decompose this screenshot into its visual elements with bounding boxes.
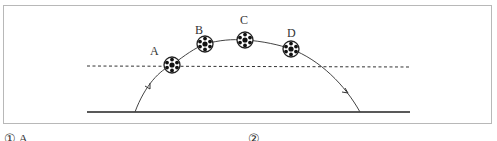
ball-icon-c xyxy=(237,32,253,48)
projectile-diagram xyxy=(0,0,497,141)
ball-icon-a xyxy=(164,57,180,73)
ball-icon-d xyxy=(283,41,299,57)
option-2[interactable]: ② xyxy=(248,131,260,141)
option-2-marker: ② xyxy=(248,131,260,141)
reference-line-dashed xyxy=(87,66,410,67)
option-1[interactable]: ① A xyxy=(4,131,28,141)
option-1-label: A xyxy=(19,131,28,141)
point-label-b: B xyxy=(195,23,203,38)
trajectory-curve xyxy=(135,40,360,112)
point-label-a: A xyxy=(150,44,159,59)
ball-icon-b xyxy=(197,36,213,52)
option-1-marker: ① xyxy=(4,131,16,141)
point-label-c: C xyxy=(240,13,248,28)
point-label-d: D xyxy=(287,26,296,41)
